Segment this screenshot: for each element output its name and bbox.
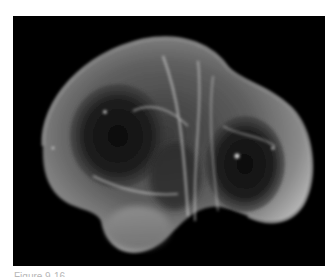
specimen-image bbox=[13, 16, 325, 266]
figure-caption: Figure 9-16 ... bbox=[14, 271, 326, 277]
specimen-photo bbox=[13, 16, 325, 266]
